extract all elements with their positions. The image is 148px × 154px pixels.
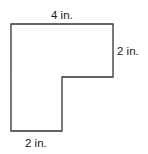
l-shape-outline: [11, 24, 113, 131]
l-shape-diagram: 4 in. 2 in. 2 in.: [0, 0, 148, 154]
bottom-dimension-label: 2 in.: [25, 137, 47, 149]
top-dimension-label: 4 in.: [51, 9, 73, 21]
right-dimension-label: 2 in.: [117, 45, 139, 57]
